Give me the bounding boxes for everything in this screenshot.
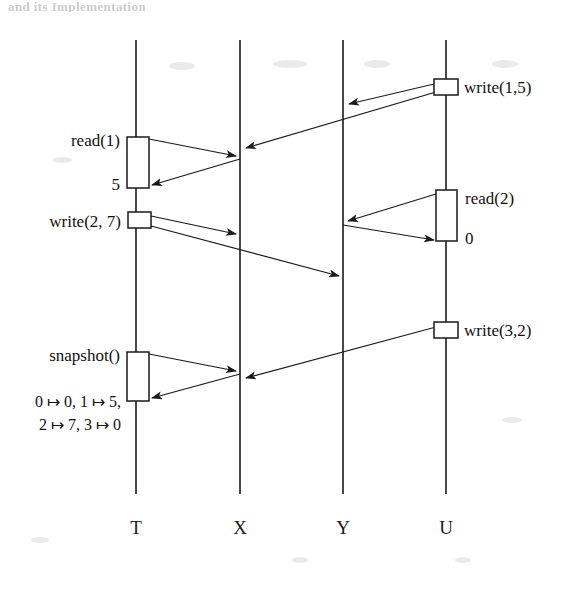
- actor-label-t: T: [130, 517, 142, 538]
- message-arrow: [152, 374, 240, 398]
- message-arrow: [151, 226, 339, 276]
- actor-labels-group: T X Y U: [130, 517, 453, 538]
- event-label-write27: write(2, 7): [49, 212, 121, 231]
- event-box-read1[interactable]: [127, 137, 149, 188]
- event-result-read1: 5: [112, 175, 121, 194]
- event-box-snapshot[interactable]: [127, 352, 149, 401]
- event-result-read2: 0: [465, 229, 474, 248]
- actor-label-y: Y: [336, 517, 350, 538]
- diagram-page: and its Implementation: [0, 0, 564, 595]
- sequence-diagram-canvas: write(1,5) read(1) 5 read(2) 0 write(2, …: [0, 0, 564, 595]
- event-label-read1: read(1): [71, 131, 120, 150]
- message-arrow: [246, 92, 436, 148]
- lifelines-group: [136, 40, 446, 494]
- message-arrow: [149, 354, 236, 371]
- event-label-snapshot: snapshot(): [49, 346, 120, 365]
- event-label-write32: write(3,2): [464, 321, 532, 340]
- message-arrow: [348, 194, 436, 221]
- message-arrow: [152, 159, 240, 185]
- message-arrow: [246, 327, 436, 378]
- event-boxes-group: [127, 79, 458, 401]
- event-result-snapshot-line1: 0 ↦ 0, 1 ↦ 5,: [35, 393, 121, 410]
- event-box-write27[interactable]: [128, 212, 151, 228]
- message-arrow: [343, 225, 434, 240]
- message-arrow: [151, 216, 236, 234]
- message-arrow: [349, 84, 434, 104]
- event-labels-group: write(1,5) read(1) 5 read(2) 0 write(2, …: [35, 78, 532, 433]
- actor-label-u: U: [439, 517, 453, 538]
- messages-group: [149, 84, 436, 398]
- event-label-write15: write(1,5): [464, 78, 532, 97]
- message-arrow: [149, 139, 236, 156]
- event-box-write32[interactable]: [434, 322, 458, 338]
- event-box-write15[interactable]: [434, 79, 458, 95]
- event-box-read2[interactable]: [436, 190, 457, 241]
- event-label-read2: read(2): [465, 189, 514, 208]
- event-result-snapshot-line2: 2 ↦ 7, 3 ↦ 0: [39, 416, 121, 433]
- actor-label-x: X: [233, 517, 247, 538]
